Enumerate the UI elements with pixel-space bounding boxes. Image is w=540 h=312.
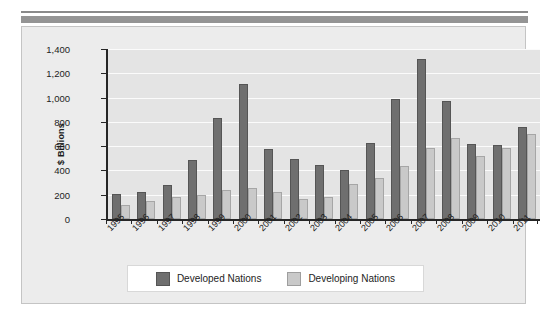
chart-legend: Developed NationsDeveloping Nations — [127, 265, 424, 292]
bar — [391, 99, 400, 219]
x-axis-label-cell: 2002 — [284, 224, 309, 258]
legend-swatch-developed — [156, 272, 170, 286]
bar-group — [184, 49, 209, 219]
bar-group — [413, 49, 438, 219]
plot-area — [106, 49, 540, 221]
x-axis-label-cell: 2010 — [487, 224, 512, 258]
bar-group — [311, 49, 336, 219]
bar-group — [362, 49, 387, 219]
y-axis-tick-label: 800 — [24, 116, 70, 127]
legend-item[interactable]: Developing Nations — [287, 272, 395, 286]
y-axis-tick-label: 600 — [24, 141, 70, 152]
x-axis-label-cell: 2006 — [385, 224, 410, 258]
x-axis-label-cell: 1999 — [208, 224, 233, 258]
x-axis-label-cell: 2007 — [411, 224, 436, 258]
bar-group — [108, 49, 133, 219]
bar — [290, 159, 299, 219]
bar-group — [159, 49, 184, 219]
x-axis-label-cell: 2001 — [258, 224, 283, 258]
bar — [188, 160, 197, 219]
bar — [400, 166, 409, 219]
bar-group — [286, 49, 311, 219]
x-axis-label-cell: 2000 — [233, 224, 258, 258]
x-axis-tick-labels: 1995199619971998199920002001200220032004… — [106, 224, 538, 258]
bar — [527, 134, 536, 219]
legend-label: Developed Nations — [177, 273, 262, 284]
x-axis-label-cell: 1997 — [157, 224, 182, 258]
x-axis-label-cell: 2004 — [335, 224, 360, 258]
y-axis-tick-label: 0 — [24, 214, 70, 225]
bar-group — [438, 49, 463, 219]
legend-label: Developing Nations — [308, 273, 395, 284]
bar-group — [515, 49, 540, 219]
bar — [213, 118, 222, 219]
bar — [518, 127, 527, 219]
bar-groups — [108, 49, 540, 219]
y-axis-tick-mark — [101, 49, 106, 50]
bar — [476, 156, 485, 219]
bar — [426, 148, 435, 219]
x-axis-label-cell: 1995 — [106, 224, 131, 258]
y-axis-tick-mark — [101, 73, 106, 74]
bar — [502, 148, 511, 219]
bar-group — [387, 49, 412, 219]
y-axis-tick-mark — [101, 122, 106, 123]
bar-group — [210, 49, 235, 219]
bar — [315, 165, 324, 219]
y-axis-tick-mark — [101, 195, 106, 196]
x-axis-label-cell: 1996 — [131, 224, 156, 258]
y-axis-tick-label: 1,200 — [24, 68, 70, 79]
bar-group — [133, 49, 158, 219]
top-rule-thick — [21, 16, 528, 23]
legend-swatch-developing — [287, 272, 301, 286]
chart-panel: $ Billions 02004006008001,0001,2001,400 … — [21, 26, 526, 304]
x-axis-label-cell: 2008 — [436, 224, 461, 258]
bar-group — [337, 49, 362, 219]
y-axis-tick-label: 400 — [24, 165, 70, 176]
bar — [349, 184, 358, 219]
x-axis-label-cell: 2005 — [360, 224, 385, 258]
x-axis-label-cell: 2011 — [513, 224, 538, 258]
bar — [375, 178, 384, 219]
bar — [366, 143, 375, 220]
bar-group — [464, 49, 489, 219]
bar — [467, 144, 476, 219]
y-axis-tick-label: 1,400 — [24, 44, 70, 55]
bar-group — [235, 49, 260, 219]
bar — [264, 149, 273, 219]
x-axis-label-cell: 2003 — [309, 224, 334, 258]
bar — [493, 145, 502, 219]
legend-item[interactable]: Developed Nations — [156, 272, 262, 286]
bar-group — [260, 49, 285, 219]
top-rule-thin — [21, 11, 528, 13]
bar — [417, 59, 426, 219]
bar — [239, 84, 248, 219]
y-axis-tick-label: 1,000 — [24, 92, 70, 103]
y-axis-tick-mark — [101, 146, 106, 147]
bar-group — [489, 49, 514, 219]
y-axis-tick-mark — [101, 170, 106, 171]
bar — [451, 138, 460, 219]
x-axis-label-cell: 2009 — [462, 224, 487, 258]
x-axis-label-cell: 1998 — [182, 224, 207, 258]
y-axis-tick-label: 200 — [24, 189, 70, 200]
bar — [442, 101, 451, 219]
y-axis-tick-mark — [101, 98, 106, 99]
